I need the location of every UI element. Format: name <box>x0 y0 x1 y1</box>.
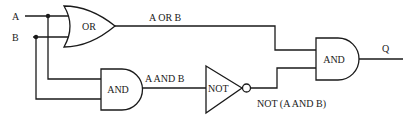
or-gate: OR <box>64 6 115 47</box>
and-gate-1-label: AND <box>107 84 129 95</box>
wire-or-output <box>115 26 316 50</box>
or-gate-label: OR <box>82 21 96 32</box>
inverter-bubble <box>243 84 251 92</box>
input-label-b: B <box>12 32 19 43</box>
junction-dot-b <box>34 35 38 39</box>
input-label-a: A <box>12 11 20 22</box>
not-gate: NOT <box>206 66 251 113</box>
wire-label-a-or-b: A OR B <box>149 12 182 23</box>
wire-not-output <box>251 68 317 88</box>
not-gate-label: NOT <box>208 83 229 94</box>
logic-circuit-diagram: A B OR A OR B AND A AND B NOT NOT (A AND… <box>0 0 417 121</box>
wire-label-a-and-b: A AND B <box>145 73 185 84</box>
and-gate-2-label: AND <box>323 54 345 65</box>
output-label-q: Q <box>382 43 390 54</box>
and-gate-2: AND <box>316 38 359 80</box>
wire-label-not-a-and-b: NOT (A AND B) <box>257 98 326 110</box>
junction-dot-a <box>46 14 50 18</box>
and-gate-1: AND <box>101 69 142 110</box>
